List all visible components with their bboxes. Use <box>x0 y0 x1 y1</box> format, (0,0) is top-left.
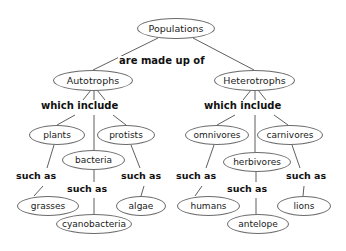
link-label-such-as-right-1: such as <box>175 171 217 181</box>
concept-map-canvas: PopulationsAutotrophsHeterotrophsplantsp… <box>0 0 346 251</box>
node-label-plants: plants <box>43 130 71 139</box>
node-label-carnivores: carnivores <box>267 130 314 139</box>
edge-heterotrophs-omnivores-a <box>243 90 251 100</box>
edge-plants-grasses-b <box>34 186 43 196</box>
node-carnivores[interactable]: carnivores <box>257 125 323 145</box>
node-bacteria[interactable]: bacteria <box>62 150 125 170</box>
link-label-made-up-of: are made up of <box>118 56 206 66</box>
edge-omnivores-humans-a <box>206 145 214 168</box>
edge-autotrophs-protists-b <box>113 115 126 125</box>
link-label-which-include-left: which include <box>40 101 119 111</box>
node-label-lions: lions <box>294 201 315 210</box>
edge-heterotrophs-carnivores-b <box>274 115 288 125</box>
node-antelope[interactable]: antelope <box>227 214 289 234</box>
node-label-herbivores: herbivores <box>233 157 281 166</box>
node-label-protists: protists <box>109 130 143 139</box>
node-algae[interactable]: algae <box>116 196 166 216</box>
node-omnivores[interactable]: omnivores <box>185 125 249 145</box>
node-label-grasses: grasses <box>31 201 66 210</box>
node-protists[interactable]: protists <box>97 125 155 145</box>
node-herbivores[interactable]: herbivores <box>223 152 291 172</box>
edge-carnivores-lions-a <box>292 145 300 168</box>
link-label-such-as-right-2: such as <box>226 184 268 194</box>
node-label-antelope: antelope <box>238 219 278 228</box>
link-label-such-as-left-3: such as <box>120 171 162 181</box>
node-cyanobacteria[interactable]: cyanobacteria <box>56 214 132 234</box>
edge-protists-algae-b <box>141 186 144 196</box>
node-autotrophs[interactable]: Autotrophs <box>53 70 133 91</box>
edge-omnivores-humans-b <box>195 186 202 196</box>
node-lions[interactable]: lions <box>277 196 331 216</box>
node-label-autotrophs: Autotrophs <box>67 75 119 85</box>
node-label-bacteria: bacteria <box>75 155 112 164</box>
link-label-such-as-left-1: such as <box>15 171 57 181</box>
node-label-cyanobacteria: cyanobacteria <box>62 219 126 228</box>
node-grasses[interactable]: grasses <box>17 196 79 216</box>
edge-autotrophs-protists-a <box>97 90 105 100</box>
node-label-heterotrophs: Heterotrophs <box>223 75 285 85</box>
node-heterotrophs[interactable]: Heterotrophs <box>214 70 295 91</box>
edge-carnivores-lions-b <box>303 186 304 196</box>
edge-autotrophs-plants-a <box>83 90 91 100</box>
node-populations[interactable]: Populations <box>137 18 215 39</box>
node-label-populations: Populations <box>149 23 204 33</box>
edge-heterotrophs-carnivores-a <box>258 90 266 100</box>
edge-heterotrophs-omnivores-b <box>217 115 235 125</box>
node-plants[interactable]: plants <box>29 125 85 145</box>
edge-protists-algae-a <box>131 145 140 168</box>
node-label-humans: humans <box>190 201 226 210</box>
node-humans[interactable]: humans <box>177 196 240 216</box>
edge-plants-grasses-a <box>47 145 54 168</box>
link-label-which-include-right: which include <box>203 101 282 111</box>
node-label-algae: algae <box>129 201 154 210</box>
node-label-omnivores: omnivores <box>193 130 240 139</box>
link-label-such-as-right-3: such as <box>285 171 327 181</box>
link-label-such-as-left-2: such as <box>66 184 108 194</box>
edge-autotrophs-plants-b <box>57 115 75 125</box>
